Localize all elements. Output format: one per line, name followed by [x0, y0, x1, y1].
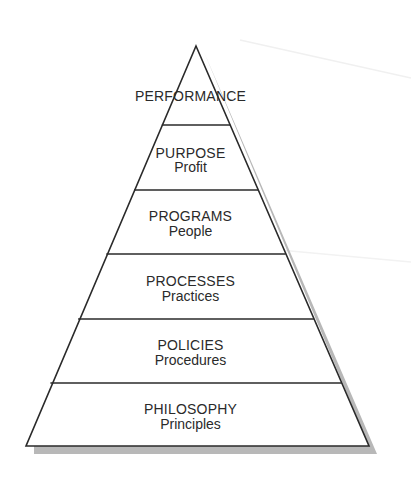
level-processes-title: PROCESSES [0, 274, 396, 289]
level-policies-subtitle: Procedures [0, 353, 396, 368]
scan-artifact-line [240, 40, 411, 78]
level-philosophy-subtitle: Principles [0, 417, 396, 432]
level-purpose-subtitle: Profit [0, 160, 396, 175]
level-philosophy-title: PHILOSOPHY [0, 402, 396, 417]
level-programs-title: PROGRAMS [0, 209, 396, 224]
pyramid-outline [26, 46, 369, 446]
level-performance-title: PERFORMANCE [0, 89, 396, 104]
level-policies-title: POLICIES [0, 338, 396, 353]
level-processes-subtitle: Practices [0, 289, 396, 304]
level-programs-subtitle: People [0, 224, 396, 239]
